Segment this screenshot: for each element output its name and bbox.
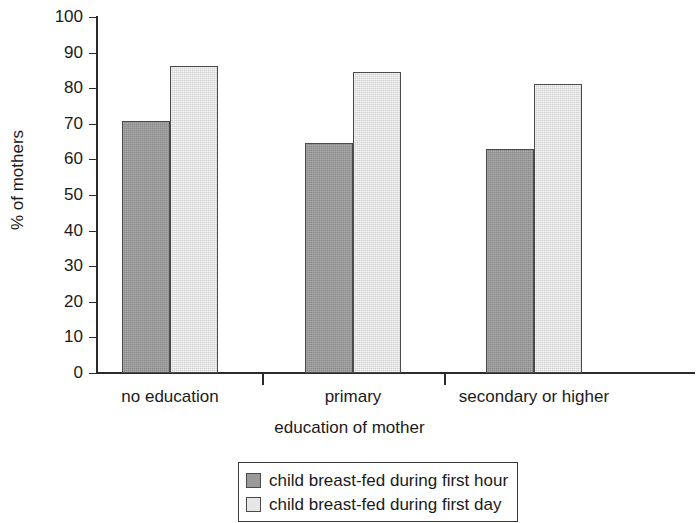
y-axis-tick: 0	[89, 373, 97, 374]
bar	[170, 66, 218, 373]
legend-item: child breast-fed during first day	[246, 492, 508, 516]
y-axis-tick-label: 40	[64, 221, 83, 241]
bar	[122, 121, 170, 373]
y-axis-tick-label: 90	[64, 43, 83, 63]
y-axis-tick-label: 60	[64, 149, 83, 169]
bar	[305, 143, 353, 373]
bar	[353, 72, 401, 373]
legend-swatch-icon	[246, 497, 261, 512]
y-axis-tick: 60	[89, 159, 97, 160]
bar-chart: 1009080706050403020100 no educationprima…	[0, 0, 699, 523]
y-axis-tick: 20	[89, 302, 97, 303]
y-axis-tick-label: 100	[55, 7, 83, 27]
y-axis-tick: 10	[89, 337, 97, 338]
y-axis-tick-label: 30	[64, 256, 83, 276]
x-axis-separator-tick	[444, 374, 446, 385]
x-axis-separator-tick	[262, 374, 264, 385]
bar	[486, 149, 534, 373]
y-axis-tick: 80	[89, 88, 97, 89]
y-axis-tick-label: 0	[74, 363, 83, 383]
legend-item-label: child breast-fed during first hour	[269, 470, 508, 491]
legend-swatch-icon	[246, 473, 261, 488]
y-axis-tick: 90	[89, 53, 97, 54]
bar	[534, 84, 582, 373]
y-axis-tick: 40	[89, 231, 97, 232]
y-axis-tick-label: 80	[64, 78, 83, 98]
legend-item-label: child breast-fed during first day	[269, 494, 501, 515]
y-axis-tick-label: 10	[64, 327, 83, 347]
y-axis-tick-label: 70	[64, 114, 83, 134]
y-axis-tick: 100	[89, 17, 97, 18]
y-axis-title: % of mothers	[8, 100, 28, 260]
x-axis-category-label: secondary or higher	[424, 386, 644, 408]
legend-item: child breast-fed during first hour	[246, 468, 508, 492]
x-axis-title: education of mother	[0, 417, 699, 439]
y-axis-tick-label: 20	[64, 292, 83, 312]
chart-legend: child breast-fed during first hourchild …	[238, 462, 518, 522]
y-axis-tick: 30	[89, 266, 97, 267]
plot-area: 1009080706050403020100	[97, 17, 694, 373]
y-axis-tick: 70	[89, 124, 97, 125]
y-axis-tick-label: 50	[64, 185, 83, 205]
y-axis-tick: 50	[89, 195, 97, 196]
